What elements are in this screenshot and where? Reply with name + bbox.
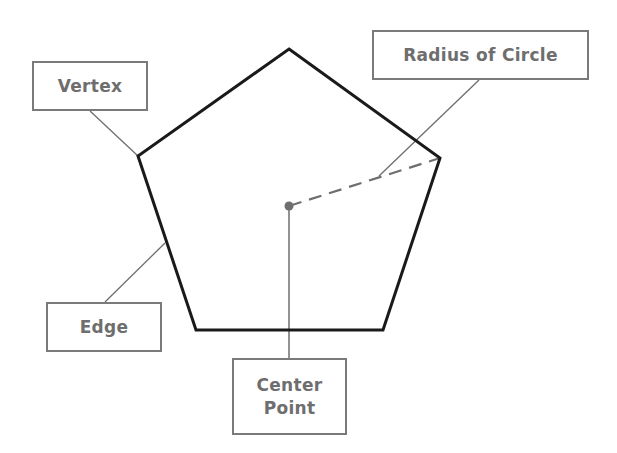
radius-of-circle-label: Radius of Circle [372, 30, 589, 80]
center-point-label: Center Point [232, 358, 347, 435]
edge-leader-line [105, 243, 165, 302]
edge-label-text: Edge [80, 316, 129, 339]
center-point-dot [285, 202, 294, 211]
vertex-label: Vertex [32, 61, 148, 111]
vertex-label-text: Vertex [58, 75, 123, 98]
vertex-leader-line [90, 111, 138, 156]
radius-label-text: Radius of Circle [403, 44, 558, 67]
center-label-line2: Point [264, 397, 316, 420]
center-label-line1: Center [257, 374, 323, 397]
edge-label: Edge [46, 302, 162, 352]
radius-leader-line [379, 80, 479, 176]
radius-line [289, 158, 440, 206]
